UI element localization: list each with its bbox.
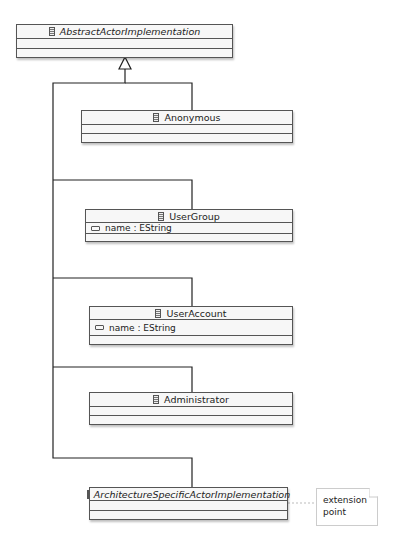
attributes-compartment [82, 125, 292, 134]
class-header: UserGroup [86, 210, 292, 223]
attributes-compartment [90, 501, 287, 511]
attribute-icon [91, 226, 100, 231]
class-usergroup[interactable]: UserGroup name : EString [85, 209, 293, 242]
attribute-icon [95, 325, 104, 330]
attribute-name[interactable]: name : EString [109, 323, 176, 333]
class-name: UserAccount [166, 308, 226, 319]
operations-compartment [82, 134, 292, 142]
class-administrator[interactable]: Administrator [89, 392, 293, 425]
class-header: ArchitectureSpecificActorImplementation [90, 488, 287, 501]
class-icon [158, 212, 164, 221]
connector-lines [0, 0, 397, 547]
attributes-compartment: name : EString [90, 320, 292, 336]
class-icon [155, 309, 161, 318]
note-text-line2: point [323, 506, 371, 518]
operations-compartment [90, 511, 287, 519]
class-name: AbstractActorImplementation [60, 26, 200, 37]
operations-compartment [86, 234, 292, 241]
class-abstract-actor-implementation[interactable]: AbstractActorImplementation [16, 24, 233, 58]
attributes-compartment [90, 407, 292, 416]
operations-compartment [90, 336, 292, 344]
class-icon [49, 27, 55, 36]
class-header: UserAccount [90, 307, 292, 320]
operations-compartment [90, 416, 292, 424]
attributes-compartment [17, 39, 232, 49]
class-header: Administrator [90, 393, 292, 407]
generalization-arrow-icon [119, 57, 131, 69]
operations-compartment [17, 49, 232, 57]
attribute-name[interactable]: name : EString [105, 223, 172, 233]
attributes-compartment: name : EString [86, 223, 292, 234]
class-icon [153, 113, 159, 122]
class-name: Administrator [164, 394, 229, 405]
note-text-line1: extension [323, 494, 371, 506]
class-name: UserGroup [169, 211, 220, 222]
note-fold-icon [369, 488, 379, 498]
class-name: ArchitectureSpecificActorImplementation [94, 489, 290, 500]
class-useraccount[interactable]: UserAccount name : EString [89, 306, 293, 345]
class-header: Anonymous [82, 111, 292, 125]
class-name: Anonymous [164, 112, 220, 123]
class-icon [87, 490, 89, 499]
class-header: AbstractActorImplementation [17, 25, 232, 39]
class-icon [153, 395, 159, 404]
class-architecture-specific-actor-implementation[interactable]: ArchitectureSpecificActorImplementation [89, 487, 288, 520]
class-anonymous[interactable]: Anonymous [81, 110, 293, 143]
